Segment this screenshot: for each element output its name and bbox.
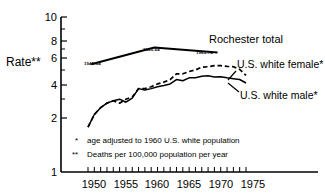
y-axis-major-ticks [61, 17, 67, 118]
y-tick-label: 4 [51, 79, 57, 91]
x-tick-label: 1955 [114, 178, 138, 190]
x-axis-tick-labels: 1950 1955 1960 1965 1970 1975 [82, 178, 265, 190]
y-axis-tick-labels: 10 8 6 4 2 1 [45, 11, 57, 178]
series-line-us-white-male [88, 76, 246, 127]
footnote-text-1: age adjusted to 1960 U.S. white populati… [87, 136, 240, 145]
footnote-marker-1: * [75, 136, 78, 145]
y-tick-label: 6 [51, 52, 57, 64]
series-label-rochester-total: Rochester total [209, 33, 283, 45]
segment-label-1955-64: 1955-64 [143, 47, 160, 52]
series-label-us-white-female: U.S. white female* [237, 58, 323, 70]
y-tick-label: 8 [51, 35, 57, 47]
x-tick-label: 1950 [82, 178, 106, 190]
y-tick-label: 1 [51, 166, 57, 178]
footnote-text-2: Deaths per 100,000 population per year [87, 150, 228, 159]
segment-label-1965-74: 1965-74 [196, 50, 213, 55]
x-tick-label: 1965 [177, 178, 201, 190]
y-tick-label: 2 [51, 112, 57, 124]
x-tick-label: 1960 [145, 178, 169, 190]
series-line-us-white-female [88, 66, 246, 127]
x-tick-label: 1970 [209, 178, 233, 190]
series-label-us-white-male: U.S. white male* [240, 89, 318, 101]
chart-figure: Rate** 10 8 6 4 2 1 [0, 0, 325, 194]
x-tick-label: 1975 [241, 178, 265, 190]
footnote-marker-2: ** [72, 150, 78, 159]
chart-canvas: Rate** 10 8 6 4 2 1 [0, 0, 325, 194]
segment-label-1945-54: 1945-54 [84, 61, 101, 66]
y-tick-label: 10 [45, 11, 57, 23]
y-axis-title: Rate** [6, 55, 41, 69]
leader-line-male [228, 83, 239, 92]
